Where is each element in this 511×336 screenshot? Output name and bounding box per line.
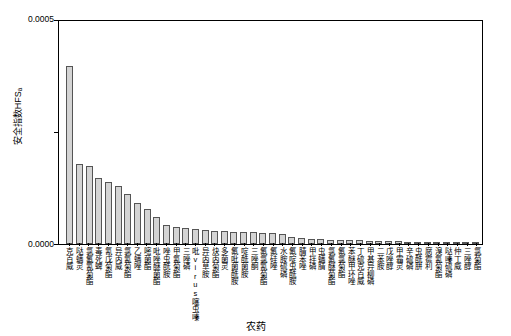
- plot-area: [58, 20, 483, 245]
- x-tick-mark: [389, 243, 390, 246]
- bar[interactable]: [95, 178, 102, 244]
- bar[interactable]: [134, 203, 141, 244]
- bar-slot: [248, 21, 258, 244]
- bar[interactable]: [144, 209, 151, 244]
- x-tick-slot: 腈苯唑: [297, 246, 307, 316]
- bar-slot: [461, 21, 471, 244]
- bar[interactable]: [115, 186, 122, 244]
- x-tick-slot: 多菌灵: [219, 246, 229, 316]
- bar-slot: [287, 21, 297, 244]
- x-tick-label: 唑虫酰胺: [162, 247, 170, 277]
- bar-slot: [306, 21, 316, 244]
- x-tick-mark: [321, 243, 322, 246]
- bar-slot: [200, 21, 210, 244]
- x-tick-label: 氯菊酯: [473, 247, 481, 270]
- x-tick-slot: 异丙草胺: [200, 246, 210, 316]
- x-tick-mark: [253, 243, 254, 246]
- x-tick-mark: [69, 243, 70, 246]
- bar[interactable]: [173, 227, 180, 244]
- x-tick-label: 克百威: [65, 247, 73, 270]
- y-axis-title: 安全指数HFSₐ: [11, 37, 24, 197]
- bar-slot: [152, 21, 162, 244]
- x-tick-mark: [457, 243, 458, 246]
- x-tick-slot: 氰戊菊酯: [103, 246, 113, 316]
- bar-slot: [239, 21, 249, 244]
- bar-slot: [442, 21, 452, 244]
- x-tick-label: 丁硫克百威: [356, 247, 364, 285]
- x-tick-label: 氯氟氰菊酯: [84, 247, 92, 285]
- bar[interactable]: [153, 217, 160, 244]
- x-tick-slot: 毒死蜱: [93, 246, 103, 316]
- bar-slot: [171, 21, 181, 244]
- x-tick-label: 异丙威: [114, 247, 122, 270]
- x-tick-slot: 氯氟醚菊酯: [326, 246, 336, 316]
- x-tick-mark: [467, 243, 468, 246]
- x-tick-label: 辛硫磷: [405, 247, 413, 270]
- bar[interactable]: [66, 66, 73, 244]
- bar[interactable]: [192, 229, 199, 244]
- x-tick-mark: [311, 243, 312, 246]
- x-tick-label: 氯氰菊酯: [123, 247, 131, 277]
- bar[interactable]: [202, 230, 209, 244]
- x-tick-mark: [137, 243, 138, 246]
- bar-slot: [220, 21, 230, 244]
- x-tick-mark: [438, 243, 439, 246]
- x-tick-mark: [224, 243, 225, 246]
- x-tick-label: 仲丁威: [453, 247, 461, 270]
- x-tick-mark: [282, 243, 283, 246]
- x-tick-slot: 氯氰菊酯: [122, 246, 132, 316]
- x-axis-title: 农药: [0, 318, 511, 333]
- x-tick-slot: 三唑酮: [248, 246, 258, 316]
- x-tick-slot: 甲霜灵: [394, 246, 404, 316]
- x-tick-mark: [292, 243, 293, 246]
- x-tick-slot: 异丙威: [113, 246, 123, 316]
- bar-slot: [113, 21, 123, 244]
- x-tick-label: 氟吡菌酰胺: [230, 247, 238, 285]
- x-tick-mark: [447, 243, 448, 246]
- bar-slot: [422, 21, 432, 244]
- bar-slot: [104, 21, 114, 244]
- x-tick-label: 毒死蜱: [94, 247, 102, 270]
- x-tick-slot: 唑虫酰胺: [161, 246, 171, 316]
- x-tick-mark: [127, 243, 128, 246]
- bar-slot: [142, 21, 152, 244]
- x-tick-mark: [273, 243, 274, 246]
- x-tick-slot: 吡唑醚菌酯: [151, 246, 161, 316]
- bar[interactable]: [105, 182, 112, 244]
- bar-slot: [364, 21, 374, 244]
- bar[interactable]: [182, 228, 189, 244]
- bar[interactable]: [211, 231, 218, 244]
- x-tick-label: 氯氟醚菊酯: [327, 247, 335, 285]
- x-tick-slot: 甲基异柳磷: [365, 246, 375, 316]
- bar[interactable]: [163, 225, 170, 244]
- x-axis-tick-labels: 克百威哒螨灵氯氟氰菊酯毒死蜱氰戊菊酯异丙威氯氰菊酯乙螨唑嘧菌酯吡唑醚菌酯唑虫酰胺…: [58, 246, 483, 316]
- x-tick-label: 甲拌磷: [308, 247, 316, 270]
- bar[interactable]: [86, 166, 93, 244]
- bar-slot: [413, 21, 423, 244]
- x-tick-mark: [428, 243, 429, 246]
- x-tick-label: 多菌灵: [220, 247, 228, 270]
- x-tick-mark: [263, 243, 264, 246]
- x-tick-label: 三唑醇: [463, 247, 471, 270]
- x-tick-label: 乙螨唑: [133, 247, 141, 270]
- x-tick-slot: 苯醚甲环唑: [345, 246, 355, 316]
- x-tick-slot: 虫螨腈: [316, 246, 326, 316]
- x-tick-mark: [117, 243, 118, 246]
- x-tick-mark: [185, 243, 186, 246]
- bar[interactable]: [76, 164, 83, 244]
- bar-slot: [374, 21, 384, 244]
- x-tick-slot: 啶酰菌胺: [239, 246, 249, 316]
- bar[interactable]: [124, 194, 131, 244]
- x-tick-slot: 戊唑醇: [384, 246, 394, 316]
- x-tick-label: 氟啶虫酰胺: [288, 247, 296, 285]
- x-tick-slot: 甲拌磷: [307, 246, 317, 316]
- bar-slot: [277, 21, 287, 244]
- bar-slot: [75, 21, 85, 244]
- bar-slot: [297, 21, 307, 244]
- x-tick-mark: [98, 243, 99, 246]
- x-tick-slot: 甲氰菊酯: [171, 246, 181, 316]
- x-tick-mark: [360, 243, 361, 246]
- x-tick-label: 甲氰菊酯: [172, 247, 180, 277]
- x-tick-label: 氟氯氰菊酯: [259, 247, 267, 285]
- y-tick-label-bottom: 0.0000: [0, 239, 54, 249]
